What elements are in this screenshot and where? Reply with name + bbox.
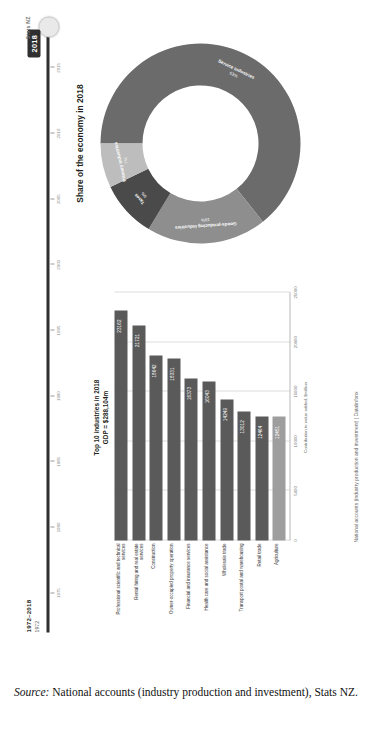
bar[interactable] [149, 355, 162, 540]
bar-chart-rows: 23162Professional scientific and technic… [114, 292, 290, 540]
timeline-tick [50, 395, 54, 396]
bar-category-label: Professional scientific and technical se… [115, 543, 125, 615]
bar-category-label: Construction [150, 543, 155, 615]
bar[interactable] [184, 378, 197, 540]
bar-chart-title: Top 10 industries in 2018 GDP = $288,104… [92, 292, 109, 542]
caption-source-text: National accounts (industry production a… [49, 686, 358, 698]
bar-chart-row[interactable]: 18331Owner-occupied property operation [167, 292, 180, 540]
timeline-tick-label: 1995 [55, 325, 60, 335]
bar-chart-x-tick-label: 25000 [292, 286, 297, 298]
top-industries-bar-chart: Top 10 industries in 2018 GDP = $288,104… [92, 292, 342, 542]
bar-value-label: 16043 [204, 390, 209, 403]
bar-chart-x-axis-label: Contribution to value added, $million [302, 292, 307, 542]
timeline-tick-label: 1990 [55, 391, 60, 401]
timeline-ticks: 197519801985199019952000200520102015 [50, 28, 64, 632]
bar-value-label: 21721 [134, 333, 139, 346]
infographic-source-note: National accounts (industry production a… [352, 212, 358, 542]
timeline-tick-label: 1975 [55, 588, 60, 598]
timeline-tick [50, 198, 54, 199]
bar[interactable] [167, 358, 180, 540]
bar-value-label: 16373 [186, 386, 191, 399]
bar-chart-row[interactable]: 16373Financial and insurance services [184, 292, 197, 540]
timeline-tick [50, 263, 54, 264]
timeline-tick [50, 66, 54, 67]
bar-chart-title-line1: Top 10 industries in 2018 [92, 379, 99, 455]
timeline-tick-label: 1985 [55, 456, 60, 466]
bar-chart-x-tick-label: 15000 [292, 385, 297, 397]
bar-chart-row[interactable]: 12451Agriculture [272, 292, 285, 540]
bar-category-label: Wholesale trade [221, 543, 226, 615]
timeline-tick-label: 2010 [55, 128, 60, 138]
timeline-track[interactable] [46, 28, 49, 632]
year-timeline-slider[interactable]: 1972–2018 1972 1975198019851990199520002… [24, 28, 70, 632]
timeline-handle[interactable] [38, 16, 59, 37]
bar-chart-row[interactable]: 14249Wholesale trade [220, 292, 233, 540]
bar-category-label: Rental hiring and real estate services [133, 543, 143, 615]
donut-chart-title: Share of the economy in 2018 [74, 18, 84, 268]
bar-chart-x-tick-label: 20000 [292, 336, 297, 348]
bar-category-label: Agriculture [273, 543, 278, 615]
bar-value-label: 12464 [257, 425, 262, 438]
bar-chart-x-tick-label: 0 [292, 539, 297, 541]
bar[interactable] [114, 310, 127, 540]
rotated-infographic-wrapper: 1972–2018 1972 1975198019851990199520002… [0, 0, 381, 660]
donut-chart-graphic: Service industries63%Goods-producing ind… [96, 39, 304, 247]
bar-chart-row[interactable]: 13012Transport postal and warehousing [237, 292, 250, 540]
figure-caption: Source: National accounts (industry prod… [14, 686, 374, 698]
bar-value-label: 23162 [116, 319, 121, 332]
bar-chart-axis [289, 292, 290, 540]
bar-chart-x-tick-label: 5000 [292, 486, 297, 496]
bar-value-label: 13012 [239, 420, 244, 433]
timeline-tick-label: 2005 [55, 194, 60, 204]
stats-nz-brand: Stats NZ [24, 16, 30, 39]
bar-value-label: 14249 [222, 407, 227, 420]
bar-category-label: Financial and insurance services [185, 543, 190, 615]
timeline-tick-label: 1980 [55, 522, 60, 532]
bar-category-label: Health care and social assistance [203, 543, 208, 615]
timeline-tick-label: 2015 [55, 63, 60, 73]
bar-chart-x-tick-label: 10000 [292, 435, 297, 447]
timeline-tick [50, 460, 54, 461]
timeline-start-year: 1972 [33, 620, 39, 632]
timeline-range-label: 1972–2018 [24, 599, 31, 632]
timeline-tick [50, 526, 54, 527]
bar[interactable] [132, 325, 145, 540]
infographic: 1972–2018 1972 1975198019851990199520002… [0, 0, 381, 660]
timeline-tick [50, 329, 54, 330]
bar-chart-row[interactable]: 23162Professional scientific and technic… [114, 292, 127, 540]
bar-category-label: Retail trade [256, 543, 261, 615]
timeline-tick [50, 132, 54, 133]
timeline-tick-label: 2000 [55, 259, 60, 269]
bar-chart-row[interactable]: 21721Rental hiring and real estate servi… [132, 292, 145, 540]
caption-source-label: Source: [14, 686, 49, 698]
screenshot-page: 1972–2018 1972 1975198019851990199520002… [0, 0, 381, 731]
bar-category-label: Owner-occupied property operation [168, 543, 173, 615]
bar-value-label: 12451 [274, 425, 279, 438]
timeline-tick [50, 592, 54, 593]
bar-chart-plot: 23162Professional scientific and technic… [114, 292, 290, 540]
bar-value-label: 18642 [151, 364, 156, 377]
bar-chart-row[interactable]: 12464Retail trade [255, 292, 268, 540]
bar-value-label: 18331 [169, 367, 174, 380]
donut-svg: Service industries63%Goods-producing ind… [96, 39, 304, 247]
bar-chart-title-line2: GDP = $288,104m [101, 390, 108, 443]
bar-chart-row[interactable]: 18642Construction [149, 292, 162, 540]
bar-chart-row[interactable]: 16043Health care and social assistance [202, 292, 215, 540]
bar-category-label: Transport postal and warehousing [238, 543, 243, 615]
bar[interactable] [202, 381, 215, 540]
economy-share-donut-chart: Share of the economy in 2018 Service ind… [74, 18, 342, 268]
